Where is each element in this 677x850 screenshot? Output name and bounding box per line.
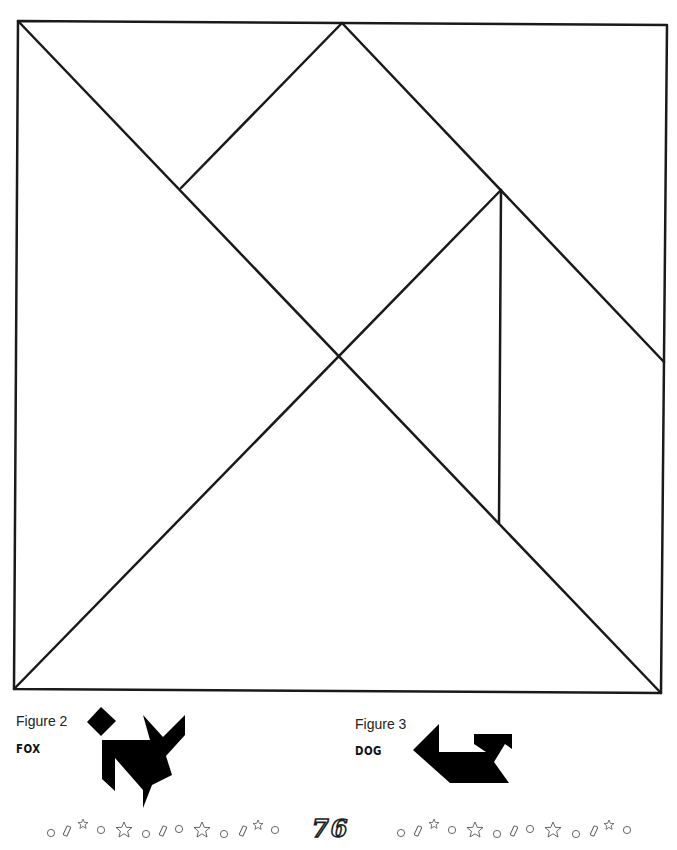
star-icon xyxy=(116,822,132,837)
star-icon xyxy=(604,820,614,829)
tangram-puzzle-outline xyxy=(0,0,677,700)
star-icon xyxy=(545,822,561,837)
circle-icon xyxy=(623,826,630,833)
tangram-line-anti-diagonal xyxy=(14,190,501,689)
tangram-line-top-left xyxy=(181,23,342,188)
star-icon xyxy=(253,820,263,829)
figure-3-label: Figure 3 xyxy=(355,716,406,732)
rectangle-icon xyxy=(414,826,422,837)
tangram-line-top-right xyxy=(342,23,664,362)
circle-icon xyxy=(175,825,182,832)
fox-body xyxy=(102,715,185,808)
fox-head-diamond xyxy=(87,707,116,736)
circle-icon xyxy=(526,825,533,832)
rectangle-icon xyxy=(159,826,167,837)
figure-2-name: FOX xyxy=(16,742,40,756)
rectangle-icon xyxy=(239,826,247,837)
circle-icon xyxy=(448,826,455,833)
page-number: 76 xyxy=(312,814,349,843)
circle-icon xyxy=(271,826,278,833)
rectangle-icon xyxy=(63,826,71,837)
rectangle-icon xyxy=(510,826,518,837)
circle-icon xyxy=(47,829,54,836)
star-icon xyxy=(429,819,439,828)
star-icon xyxy=(78,819,88,828)
circle-icon xyxy=(493,830,500,837)
rectangle-icon xyxy=(590,826,598,837)
circle-icon xyxy=(397,829,404,836)
circle-icon xyxy=(572,830,579,837)
decoration-row-right xyxy=(397,819,630,838)
circle-icon xyxy=(142,830,149,837)
decoration-row-left xyxy=(47,819,278,838)
circle-icon xyxy=(97,826,104,833)
figure-3-name: DOG xyxy=(355,744,382,758)
figure-2-label: Figure 2 xyxy=(16,713,67,729)
star-icon xyxy=(194,822,210,837)
tangram-line-vertical xyxy=(499,190,501,523)
dog-body xyxy=(413,724,512,783)
star-icon xyxy=(467,822,483,837)
circle-icon xyxy=(220,830,227,837)
